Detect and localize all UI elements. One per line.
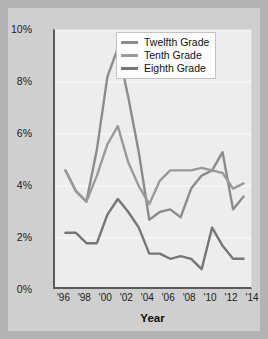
legend-line-swatch-icon — [121, 67, 138, 70]
x-axis-tick-label: '14 — [240, 293, 264, 303]
y-axis-tick-label: 0% — [0, 284, 32, 295]
chart-card: 0%2%4%6%8%10% '96'98'00'02'04'06'08'10'1… — [8, 8, 260, 331]
legend-item[interactable]: Twelfth Grade — [121, 36, 209, 49]
x-axis-title: Year — [53, 312, 252, 324]
legend-item-label: Twelfth Grade — [144, 37, 209, 48]
legend-line-swatch-icon — [121, 41, 138, 44]
y-axis-tick-label: 10% — [0, 24, 32, 35]
legend-item-label: Tenth Grade — [144, 50, 202, 61]
chart-figure: 0%2%4%6%8%10% '96'98'00'02'04'06'08'10'1… — [0, 0, 268, 339]
series-line-eighth-grade — [65, 199, 243, 269]
legend-item[interactable]: Tenth Grade — [121, 49, 209, 62]
y-axis-tick-label: 2% — [0, 232, 32, 243]
series-line-tenth-grade — [65, 126, 243, 204]
legend-item[interactable]: Eighth Grade — [121, 62, 209, 75]
y-axis-tick-label: 6% — [0, 128, 32, 139]
legend-item-label: Eighth Grade — [144, 63, 206, 74]
legend-line-swatch-icon — [121, 54, 138, 57]
chart-legend: Twelfth GradeTenth GradeEighth Grade — [116, 32, 216, 79]
y-axis-tick-label: 4% — [0, 180, 32, 191]
y-axis-tick-label: 8% — [0, 76, 32, 87]
